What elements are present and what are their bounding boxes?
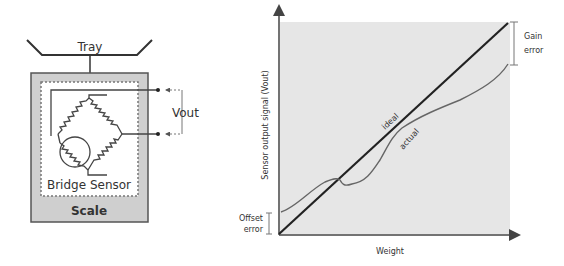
scale-diagram: Tray Bridge Sensor Scale Vout	[27, 40, 199, 222]
gain-error-bracket	[510, 22, 518, 65]
figure: Tray Bridge Sensor Scale Vout	[0, 0, 564, 266]
terminal-top	[156, 88, 160, 92]
tray-label: Tray	[77, 40, 103, 54]
error-chart: ideal actual Gain error Offset error Wei…	[239, 7, 544, 256]
offset-error-label-2: error	[244, 225, 264, 234]
gain-error-label-2: error	[524, 46, 544, 55]
x-axis-label: Weight	[376, 247, 404, 256]
bridge-sensor-label: Bridge Sensor	[47, 178, 131, 192]
offset-error-label-1: Offset	[239, 214, 263, 223]
terminal-bottom	[156, 132, 160, 136]
y-axis-label: Sensor output signal (Vout)	[261, 70, 270, 179]
gain-error-label-1: Gain	[524, 32, 542, 41]
scale-label: Scale	[71, 204, 107, 218]
vout-label: Vout	[172, 106, 199, 120]
offset-error-bracket	[266, 213, 272, 234]
